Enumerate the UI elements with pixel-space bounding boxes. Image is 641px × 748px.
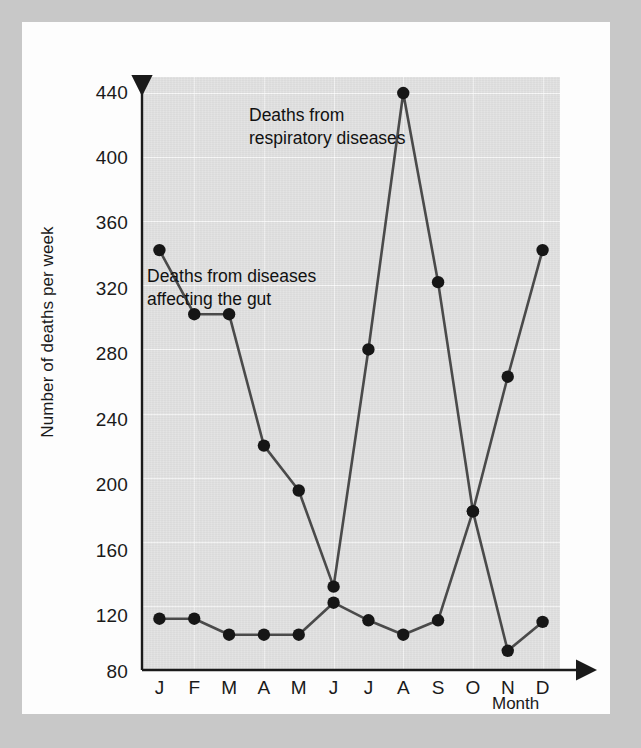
data-point — [397, 629, 409, 641]
data-point — [467, 505, 479, 517]
data-point — [293, 484, 305, 496]
data-point — [258, 629, 270, 641]
data-point — [502, 645, 514, 657]
series-line — [159, 511, 542, 650]
y-tick-80: 80 — [66, 661, 128, 683]
series-0 — [153, 87, 549, 593]
x-tick-7: A — [385, 677, 421, 699]
data-point — [188, 613, 200, 625]
data-point — [327, 596, 339, 608]
annotation-gut: Deaths from diseases affecting the gut — [147, 265, 316, 311]
y-tick-240: 240 — [66, 409, 128, 431]
x-tick-1: F — [176, 677, 212, 699]
y-tick-360: 360 — [66, 212, 128, 234]
data-point — [397, 87, 409, 99]
data-point — [223, 629, 235, 641]
y-tick-320: 320 — [66, 278, 128, 300]
y-tick-280: 280 — [66, 343, 128, 365]
x-axis-title: Month — [492, 694, 539, 714]
data-point — [327, 580, 339, 592]
y-tick-120: 120 — [66, 605, 128, 627]
data-point — [536, 244, 548, 256]
y-tick-160: 160 — [66, 540, 128, 562]
series-line — [159, 93, 542, 587]
figure-panel: 440 400 360 320 280 240 200 160 120 80 J… — [22, 22, 610, 714]
data-point — [258, 439, 270, 451]
y-tick-200: 200 — [66, 474, 128, 496]
data-point — [502, 371, 514, 383]
data-point — [362, 614, 374, 626]
y-axis-title: Number of deaths per week — [38, 92, 58, 572]
x-tick-2: M — [211, 677, 247, 699]
y-tick-400: 400 — [66, 147, 128, 169]
data-point — [536, 616, 548, 628]
data-point — [153, 613, 165, 625]
data-point — [153, 244, 165, 256]
data-point — [293, 629, 305, 641]
series-1 — [153, 505, 549, 657]
data-series-layer — [142, 77, 560, 670]
x-tick-0: J — [141, 677, 177, 699]
data-point — [432, 614, 444, 626]
x-tick-8: S — [420, 677, 456, 699]
data-point — [432, 276, 444, 288]
data-point — [362, 343, 374, 355]
y-tick-440: 440 — [66, 82, 128, 104]
x-tick-3: A — [246, 677, 282, 699]
x-tick-6: J — [350, 677, 386, 699]
x-tick-4: M — [281, 677, 317, 699]
x-tick-9: O — [455, 677, 491, 699]
annotation-respiratory: Deaths from respiratory diseases — [249, 104, 406, 150]
x-tick-5: J — [316, 677, 352, 699]
